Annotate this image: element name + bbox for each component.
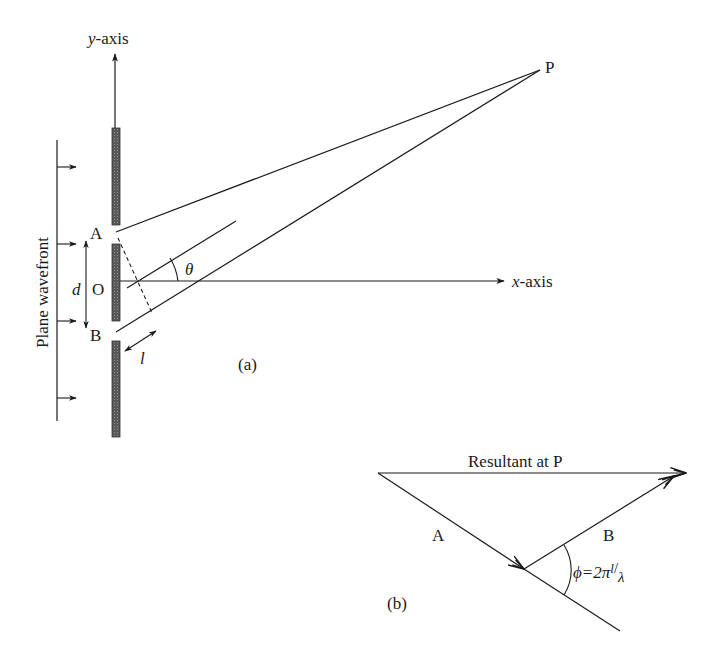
point-a-label: A <box>90 224 103 243</box>
path-difference: l <box>125 331 156 368</box>
figure-b: Resultant at P A B ϕ=2πl/λ (b) <box>378 452 686 631</box>
ray-from-o <box>127 221 236 288</box>
x-axis-label: x-axis <box>511 272 553 291</box>
screen-lower-slab <box>112 341 120 437</box>
slit-separation: d <box>72 241 86 328</box>
angle-theta: θ <box>170 258 193 281</box>
figure-a: y-axis Plane wavefront d A O B <box>33 29 554 437</box>
ray-from-a <box>116 70 540 232</box>
phase-angle-arc <box>564 545 571 595</box>
screen-upper-slab <box>112 128 120 225</box>
screen-middle-slab <box>112 244 120 321</box>
point-b-label: B <box>90 326 101 345</box>
vector-a-label: A <box>432 526 445 545</box>
angle-label: θ <box>185 260 193 279</box>
rays-to-p: P <box>116 58 554 332</box>
double-slit-diagram: y-axis Plane wavefront d A O B <box>0 0 724 663</box>
point-p-label: P <box>545 58 554 77</box>
y-axis: y-axis <box>86 29 129 128</box>
vector-b-label: B <box>603 526 614 545</box>
vector-b <box>524 476 674 569</box>
resultant-label: Resultant at P <box>468 452 562 471</box>
caption-b: (b) <box>387 594 407 613</box>
ray-from-b <box>116 70 540 332</box>
caption-a: (a) <box>238 355 257 374</box>
vector-a <box>378 473 524 569</box>
path-difference-label: l <box>140 349 145 368</box>
phase-angle-label: ϕ=2πl/λ <box>573 560 625 585</box>
point-o-label: O <box>92 280 104 299</box>
slit-screen <box>112 128 120 437</box>
wavefront-label: Plane wavefront <box>33 237 52 348</box>
plane-wavefront: Plane wavefront <box>33 140 76 421</box>
y-axis-label: y-axis <box>86 29 129 48</box>
separation-label: d <box>72 280 81 299</box>
